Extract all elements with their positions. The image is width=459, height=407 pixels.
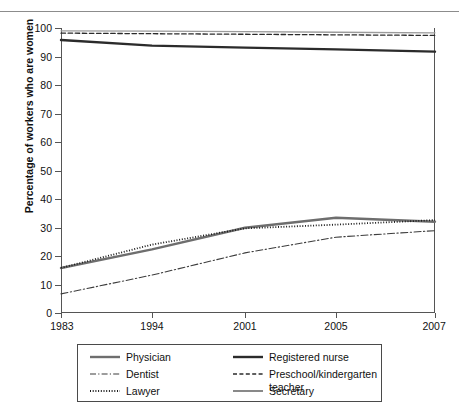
legend-columns: PhysicianDentistLawyerRegistered nursePr… (78, 345, 381, 401)
legend-label: Secretary (269, 385, 314, 398)
x-tick-label: 2001 (233, 320, 256, 332)
series-line-secretary (61, 31, 435, 33)
y-tick-label: 40 (40, 193, 52, 205)
page-top-partial-text (0, 0, 459, 10)
y-tick-label: 30 (40, 222, 52, 234)
x-tick-mark (152, 313, 153, 318)
legend-label: Physician (126, 351, 171, 364)
y-tick-label: 100 (34, 22, 52, 34)
chart-figure: Percentage of workers who are women 0102… (0, 0, 459, 407)
chart-legend: PhysicianDentistLawyerRegistered nursePr… (77, 344, 382, 402)
legend-item[interactable]: Lawyer (90, 385, 160, 398)
legend-item[interactable]: Physician (90, 351, 171, 364)
y-tick-label: 10 (40, 279, 52, 291)
x-tick-mark (435, 313, 436, 318)
series-line-dentist (61, 231, 435, 294)
series-lines (61, 28, 435, 313)
legend-line-swatch (233, 351, 263, 363)
x-tick-label: 1994 (140, 320, 163, 332)
y-tick-label: 20 (40, 250, 52, 262)
legend-line-swatch (233, 368, 263, 380)
legend-line-swatch (233, 385, 263, 397)
legend-item[interactable]: Registered nurse (233, 351, 349, 364)
x-tick-label: 1983 (50, 320, 73, 332)
legend-line-swatch (90, 351, 120, 363)
top-horizontal-rule (0, 11, 459, 12)
legend-label: Dentist (126, 368, 159, 381)
legend-line-swatch (90, 385, 120, 397)
axes: 0102030405060708090100 19831994200120052… (61, 28, 435, 313)
series-line-preschool-kindergarten-teacher (61, 33, 435, 35)
x-tick-mark (336, 313, 337, 318)
y-tick-label: 60 (40, 136, 52, 148)
y-tick-label: 90 (40, 51, 52, 63)
plot-area: Percentage of workers who are women 0102… (0, 14, 459, 314)
x-tick-label: 2005 (324, 320, 347, 332)
y-tick-label: 50 (40, 165, 52, 177)
legend-item[interactable]: Dentist (90, 368, 159, 381)
y-axis-title: Percentage of workers who are women (23, 0, 35, 241)
y-tick-label: 80 (40, 79, 52, 91)
y-tick-label: 70 (40, 108, 52, 120)
x-tick-label: 2007 (422, 320, 445, 332)
legend-label: Lawyer (126, 385, 160, 398)
legend-line-swatch (90, 368, 120, 380)
series-line-registered-nurse (61, 40, 435, 52)
x-tick-mark (245, 313, 246, 318)
legend-label: Registered nurse (269, 351, 349, 364)
series-line-physician (61, 218, 435, 268)
legend-item[interactable]: Secretary (233, 385, 314, 398)
x-tick-mark (61, 313, 62, 318)
y-tick-label: 0 (46, 307, 52, 319)
